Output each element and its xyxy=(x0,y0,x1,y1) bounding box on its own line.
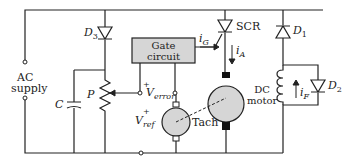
ac-terminal-bottom xyxy=(23,96,27,100)
wiper-wire xyxy=(108,63,140,93)
motor-brush-bottom xyxy=(222,122,230,130)
tach-label: Tach xyxy=(192,117,218,128)
v-ref-sub: ref xyxy=(143,120,155,129)
ia-label: iA xyxy=(236,45,245,59)
d3-label-sub: 3 xyxy=(93,32,98,41)
d3-label-main: D xyxy=(84,26,93,39)
dc-motor-line2: motor xyxy=(247,95,277,106)
bottom-terminal xyxy=(139,151,143,155)
c-p-wire xyxy=(74,70,105,153)
if-label: iF xyxy=(300,87,309,101)
potentiometer-wire xyxy=(100,70,110,153)
d1-main: D xyxy=(293,24,302,37)
wiper-arrow-icon xyxy=(110,90,115,96)
d2-diode-icon xyxy=(311,80,325,92)
d1-sub: 1 xyxy=(302,30,307,39)
field-coil xyxy=(277,65,283,105)
scr-label: SCR xyxy=(236,21,260,32)
supply-label: supply xyxy=(11,83,48,94)
scr-motor-speed-control-diagram: AC supply D3 C P Gate circuit + Verror +… xyxy=(0,0,349,161)
dc-motor-line1: DC xyxy=(247,84,277,95)
ia-sub: A xyxy=(240,50,246,59)
gate-circuit-line1: Gate xyxy=(132,40,195,51)
ig-label: iG xyxy=(199,33,209,47)
d3-label: D3 xyxy=(84,27,98,41)
v-error-sub: error xyxy=(154,92,175,101)
gate-circuit-label: Gate circuit xyxy=(132,40,195,62)
capacitor-plates xyxy=(67,102,81,108)
d1-label: D1 xyxy=(293,25,307,39)
v-error-label: Verror xyxy=(146,87,175,101)
ig-sub: G xyxy=(203,38,209,47)
tach-brush-top xyxy=(173,102,179,107)
d2-label: D2 xyxy=(328,80,342,94)
motor-brush-top xyxy=(222,72,230,78)
d2-sub: 2 xyxy=(337,85,342,94)
dc-motor-label: DC motor xyxy=(247,84,277,106)
tach-brush-bottom xyxy=(173,136,179,141)
p-label: P xyxy=(87,89,94,100)
ac-terminal-top xyxy=(23,60,27,64)
v-error-main: V xyxy=(146,86,154,99)
d1-diode-icon xyxy=(276,26,290,38)
d2-main: D xyxy=(328,79,337,92)
v-error-terminal-plus xyxy=(138,91,142,95)
v-ref-main: V xyxy=(135,114,143,127)
d3-diode-icon xyxy=(98,27,112,39)
if-sub: F xyxy=(304,92,310,101)
v-ref-label: Vref xyxy=(135,115,154,129)
c-label: C xyxy=(55,99,63,110)
gate-circuit-line2: circuit xyxy=(132,51,195,62)
scr-thyristor-icon xyxy=(218,20,232,32)
